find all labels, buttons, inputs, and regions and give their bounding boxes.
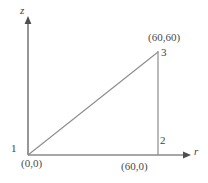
node-number-2: 2 xyxy=(160,135,166,146)
node-coordinate-2: (60,0) xyxy=(121,161,148,172)
z-axis-arrowhead xyxy=(25,16,32,24)
node-number-3: 3 xyxy=(161,47,167,58)
node-number-1: 1 xyxy=(11,143,17,154)
z-axis-label: z xyxy=(20,5,24,16)
triangle-hypotenuse xyxy=(28,52,158,155)
z-axis xyxy=(25,16,32,155)
node-coordinate-1: (0,0) xyxy=(21,158,42,169)
r-axis xyxy=(28,152,191,159)
r-axis-label: r xyxy=(194,146,198,157)
node-coordinate-3: (60,60) xyxy=(148,32,180,43)
geometry-figure: z r 1 2 3 (0,0) (60,0) (60,60) xyxy=(0,0,208,183)
figure-canvas xyxy=(0,0,208,183)
r-axis-arrowhead xyxy=(183,152,191,159)
